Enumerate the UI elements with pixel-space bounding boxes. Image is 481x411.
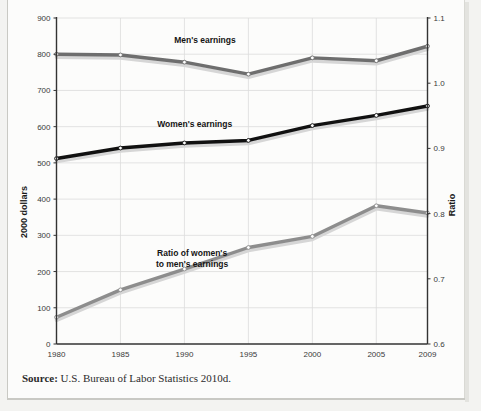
axis-tick-label-right: 0.9 <box>434 144 446 153</box>
figure-container: 01002003004005006007008009000.60.70.80.9… <box>0 0 481 411</box>
series-line <box>57 206 428 317</box>
data-point-marker <box>183 60 187 64</box>
data-point-marker <box>119 288 123 292</box>
axis-tick-label-left: 500 <box>37 159 51 168</box>
data-point-marker <box>119 53 123 57</box>
data-point-marker <box>310 235 314 239</box>
tick-labels-group: 01002003004005006007008009000.60.70.80.9… <box>37 14 445 359</box>
axis-tick-label-left: 200 <box>37 268 51 277</box>
series-inline-label: Ratio of women's <box>157 248 227 258</box>
series-shadows-group <box>57 49 428 320</box>
chart-svg: 01002003004005006007008009000.60.70.80.9… <box>0 0 481 411</box>
data-point-marker <box>310 124 314 128</box>
axis-tick-label-bottom: 1995 <box>239 350 257 359</box>
series-inline-label: to men's earnings <box>156 259 229 269</box>
axis-tick-label-bottom: 2009 <box>419 350 437 359</box>
axis-tick-label-right: 1.0 <box>434 79 446 88</box>
axis-tick-label-left: 100 <box>37 304 51 313</box>
axis-tick-label-bottom: 2000 <box>303 350 321 359</box>
series-markers-group <box>55 44 430 319</box>
data-point-marker <box>310 56 314 60</box>
axis-tick-label-left: 900 <box>37 14 51 23</box>
source-label: Source: <box>22 372 58 384</box>
data-point-marker <box>374 204 378 208</box>
data-point-marker <box>183 141 187 145</box>
source-text: U.S. Bureau of Labor Statistics 2010d. <box>61 372 231 384</box>
axis-tick-label-left: 800 <box>37 50 51 59</box>
axis-tick-label-bottom: 1985 <box>112 350 130 359</box>
series-line <box>57 46 428 74</box>
data-point-marker <box>246 72 250 76</box>
data-point-marker <box>246 246 250 250</box>
axis-tick-label-bottom: 1990 <box>176 350 194 359</box>
series-line <box>57 106 428 159</box>
axis-tick-label-left: 0 <box>46 340 51 349</box>
axis-tick-label-bottom: 2005 <box>367 350 385 359</box>
axis-tick-label-right: 0.7 <box>434 275 446 284</box>
series-inline-label: Women's earnings <box>157 119 232 129</box>
data-point-marker <box>374 59 378 63</box>
axis-title-right: Ratio <box>447 193 457 216</box>
data-point-marker <box>246 139 250 143</box>
axis-tick-label-bottom: 1980 <box>48 350 66 359</box>
series-inline-label: Men's earnings <box>174 35 236 45</box>
series-shadow <box>57 209 428 320</box>
axis-tick-label-right: 0.6 <box>434 340 446 349</box>
axis-title-left: 2000 dollars <box>19 186 29 238</box>
axis-tick-label-left: 300 <box>37 231 51 240</box>
axis-tick-label-left: 400 <box>37 195 51 204</box>
line-chart: 01002003004005006007008009000.60.70.80.9… <box>0 0 481 411</box>
source-note: Source: U.S. Bureau of Labor Statistics … <box>22 372 231 384</box>
axis-tick-label-left: 700 <box>37 86 51 95</box>
series-lines-group <box>57 46 428 317</box>
axis-tick-label-right: 1.1 <box>434 14 446 23</box>
data-point-marker <box>119 146 123 150</box>
axis-tick-label-left: 600 <box>37 123 51 132</box>
data-point-marker <box>374 114 378 118</box>
axis-tick-label-right: 0.8 <box>434 210 446 219</box>
